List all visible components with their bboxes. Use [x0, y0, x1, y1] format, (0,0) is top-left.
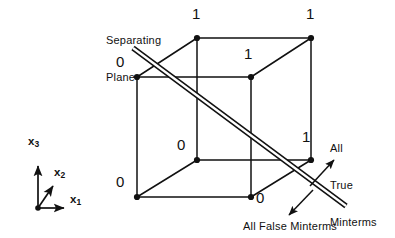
axis-x2-arrow	[38, 186, 53, 208]
cube-edge-bottom-left-diag	[137, 160, 197, 197]
all-true-minterms-line2: True	[330, 179, 377, 191]
vertex-dot-front-bottom-left	[194, 157, 200, 163]
axis-label-x1-subscript: 1	[77, 197, 82, 207]
all-true-minterms-line1: All	[330, 142, 377, 154]
vertex-label-back-bottom-right: 0	[256, 190, 265, 207]
vertex-dot-back-top-right	[248, 74, 254, 80]
vertex-label-back-top-right: 1	[244, 46, 253, 63]
all-false-minterms-arrow	[289, 190, 313, 215]
vertex-dot-front-top-left	[194, 35, 200, 41]
vertex-label-front-bottom-left: 0	[177, 137, 186, 154]
axis-label-x2: x2	[54, 166, 66, 179]
axis-label-x1: x1	[70, 193, 82, 206]
axis-label-x3: x3	[28, 135, 40, 148]
vertex-dot-back-bottom-right	[248, 194, 254, 200]
separating-plane-label-line2: Plane	[106, 71, 161, 83]
separating-plane-cube-figure: x1 x2 x3 0 1 1 1 0 0 1 0 Separating Plan…	[0, 0, 395, 238]
separating-plane-label: Separating Plane	[106, 9, 161, 108]
vertex-label-front-top-right: 1	[306, 6, 315, 23]
vertex-dot-front-bottom-right	[308, 157, 314, 163]
vertex-dot-front-top-right	[308, 35, 314, 41]
all-false-minterms-label: All False Minterms	[243, 220, 337, 232]
vertex-label-front-top-left: 1	[192, 6, 201, 23]
axis-label-x2-subscript: 2	[61, 170, 66, 180]
axis-label-x3-subscript: 3	[35, 139, 40, 149]
vertex-label-back-bottom-left: 0	[116, 174, 125, 191]
vertex-dot-back-bottom-left	[134, 194, 140, 200]
cube-edge-top-right-diag	[251, 38, 311, 77]
separating-plane-label-line1: Separating	[106, 34, 161, 46]
axis-origin-dot	[35, 205, 41, 211]
vertex-label-front-bottom-right: 1	[302, 129, 311, 146]
